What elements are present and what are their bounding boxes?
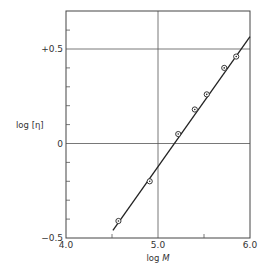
y-tick-label: −0.5 — [41, 233, 63, 243]
tick-labels: 4.05.06.0−0.50+0.5 — [41, 44, 257, 250]
y-axis-label: log [η] — [16, 120, 44, 130]
data-point — [147, 179, 152, 184]
data-point-dot — [149, 181, 151, 183]
data-point — [192, 107, 197, 112]
data-point-dot — [206, 94, 208, 96]
x-axis-label: log M — [146, 253, 170, 263]
data-point-dot — [118, 220, 120, 222]
fit-line — [113, 37, 250, 231]
y-tick-label: +0.5 — [41, 44, 63, 54]
data-point-dot — [177, 133, 179, 135]
x-tick-label: 5.0 — [151, 240, 166, 250]
data-point-dot — [223, 67, 225, 69]
data-point — [204, 92, 209, 97]
gridlines — [66, 11, 250, 238]
data-point — [234, 54, 239, 59]
data-point — [116, 218, 121, 223]
y-tick-label: 0 — [57, 139, 63, 149]
data-point-dot — [235, 56, 237, 58]
data-point — [222, 65, 227, 70]
x-tick-label: 6.0 — [243, 240, 258, 250]
x-axis-label-var: M — [162, 253, 170, 263]
series — [113, 37, 250, 231]
data-point-dot — [194, 109, 196, 111]
ticks — [66, 30, 204, 238]
x-axis-label-prefix: log — [146, 253, 162, 263]
data-point — [176, 131, 181, 136]
chart: 4.05.06.0−0.50+0.5 log [η] log M — [0, 0, 268, 275]
